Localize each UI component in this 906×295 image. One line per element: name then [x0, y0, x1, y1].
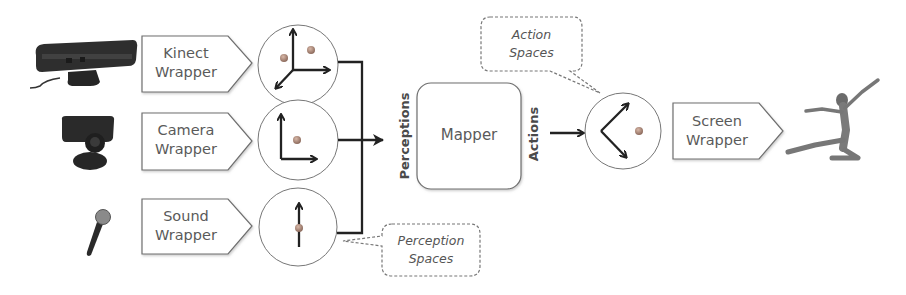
sound-perception-space — [259, 188, 337, 266]
kinect-wrapper-line1: Kinect — [142, 44, 230, 63]
screen-wrapper-line2: Wrapper — [673, 131, 761, 150]
camera-wrapper-line2: Wrapper — [142, 140, 230, 159]
perception-spaces-line2: Spaces — [382, 250, 480, 268]
camera-device-icon — [62, 116, 114, 170]
mapper-label: Mapper — [417, 126, 521, 145]
sound-wrapper-label: Sound Wrapper — [142, 207, 230, 245]
action-spaces-line2: Spaces — [481, 44, 582, 62]
kinect-wrapper-line2: Wrapper — [142, 63, 230, 82]
action-spaces-text: Action Spaces — [481, 26, 582, 62]
camera-wrapper-label: Camera Wrapper — [142, 121, 230, 159]
sound-wrapper-line2: Wrapper — [142, 226, 230, 245]
camera-wrapper-line1: Camera — [142, 121, 230, 140]
screen-wrapper-line1: Screen — [673, 112, 761, 131]
action-space — [585, 93, 661, 169]
perception-spaces-line1: Perception — [382, 232, 480, 250]
perception-spaces-text: Perception Spaces — [382, 232, 480, 268]
kinect-sensor-icon — [30, 40, 137, 88]
camera-perception-space — [258, 100, 338, 180]
dancer-avatar-icon — [788, 80, 878, 158]
kinect-perception-space — [258, 25, 338, 105]
kinect-wrapper-label: Kinect Wrapper — [142, 44, 230, 82]
microphone-icon — [87, 210, 111, 257]
action-spaces-line1: Action — [481, 26, 582, 44]
diagram-canvas: Kinect Wrapper Camera Wrapper Sound Wrap… — [0, 0, 906, 295]
perception-bus-connector — [337, 62, 383, 233]
perceptions-label: Perceptions — [397, 86, 415, 186]
actions-label: Actions — [526, 99, 544, 169]
screen-wrapper-label: Screen Wrapper — [673, 112, 761, 150]
sound-wrapper-line1: Sound — [142, 207, 230, 226]
